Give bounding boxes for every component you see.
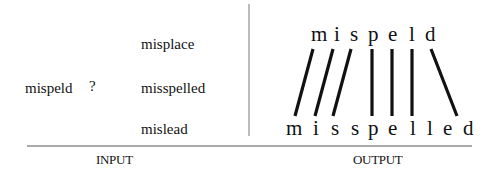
input-label: INPUT (96, 152, 133, 168)
alignment-lines (295, 49, 457, 116)
target-letter: m (286, 116, 302, 141)
query-word: mispeld (25, 80, 73, 97)
target-letter: s (351, 116, 359, 141)
output-label: OUTPUT (353, 152, 402, 168)
source-letter: l (409, 22, 415, 47)
target-letter: i (313, 116, 319, 141)
query-mark: ? (89, 78, 96, 95)
target-letter: d (463, 116, 474, 141)
target-letter: p (368, 116, 379, 141)
source-letter: m (311, 22, 327, 47)
source-letter: e (388, 22, 397, 47)
candidate-1: misplace (141, 36, 194, 53)
candidate-3: mislead (141, 121, 188, 138)
source-letter: d (425, 22, 436, 47)
target-letter: e (443, 116, 452, 141)
diagram-lines (0, 0, 493, 172)
target-letter: l (410, 116, 416, 141)
target-letter: s (331, 116, 339, 141)
target-letter: e (388, 116, 397, 141)
source-letter: p (368, 22, 379, 47)
source-letter: s (350, 22, 358, 47)
candidate-2: misspelled (141, 80, 205, 97)
target-letter: l (427, 116, 433, 141)
source-letter: i (334, 22, 340, 47)
